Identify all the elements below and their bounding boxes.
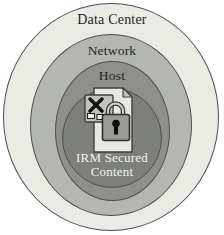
irm-protection-layers-diagram: Data Center Network Host IRM Secured Con… [0,0,224,235]
secured-document-icon [82,84,136,154]
page-fold-icon [123,88,132,97]
card-slot-left-icon [88,114,95,119]
